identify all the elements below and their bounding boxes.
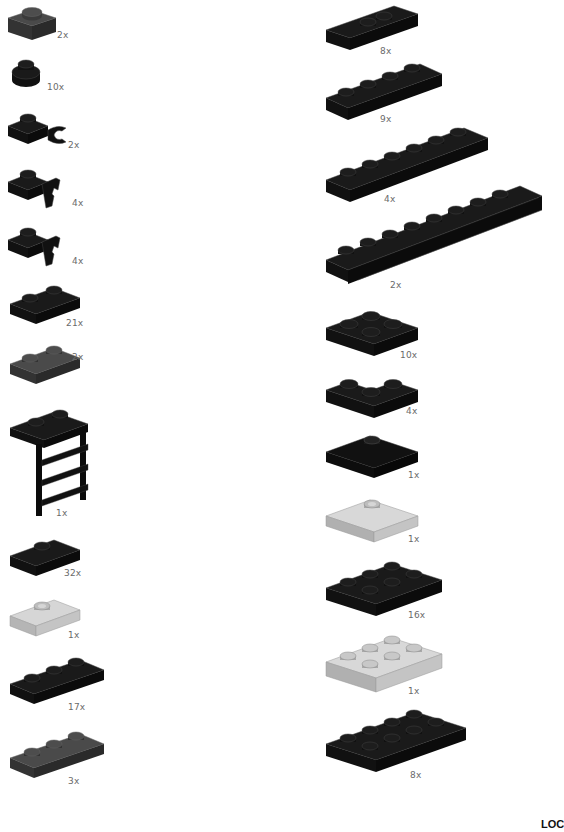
part-plate-2x3-black: 16x [324, 556, 454, 620]
part-plate-2x2-jumper-light-gray: 1x [324, 494, 434, 550]
footer-code: LOC [541, 818, 564, 830]
part-plate-2x3-light-gray: 1x [324, 630, 454, 700]
quantity-label: 4x [72, 256, 83, 266]
quantity-label: 1x [408, 470, 419, 480]
part-plate-ladder-black: 1x [8, 408, 98, 520]
plate-1x2-icon [8, 344, 88, 390]
quantity-label: 17x [68, 702, 85, 712]
part-plate-1x2-dark-gray: 2x [8, 344, 88, 390]
quantity-label: 10x [47, 82, 64, 92]
quantity-label: 32x [64, 568, 81, 578]
part-plate-2x4-black: 8x [324, 704, 474, 784]
part-plate-clip-vertical-black: 4x [6, 168, 86, 212]
part-plate-1x2-black: 8x [324, 4, 424, 56]
plate-2x3-icon [324, 630, 454, 700]
part-plate-2x2-corner-black: 4x [324, 372, 434, 426]
round-plate-icon [6, 58, 66, 98]
quantity-label: 2x [57, 30, 68, 40]
part-plate-1x4-black: 9x [324, 62, 454, 126]
part-plate-1x1-dark-gray: 2x [6, 4, 76, 44]
plate-2x2-icon [324, 306, 434, 366]
quantity-label: 1x [408, 686, 419, 696]
quantity-label: 21x [66, 318, 83, 328]
quantity-label: 8x [410, 770, 421, 780]
quantity-label: 1x [56, 508, 67, 518]
part-plate-1x8-door-rail-black: 2x [324, 184, 554, 294]
clip-plate-icon [6, 112, 76, 152]
part-plate-clip-horizontal-black: 2x [6, 112, 86, 152]
part-plate-2x2-jumper-black: 1x [324, 430, 434, 486]
plate-2x4-icon [324, 704, 474, 784]
quantity-label: 2x [72, 352, 83, 362]
part-plate-1x3-dark-gray: 3x [8, 730, 108, 784]
part-plate-clip-vertical-black: 4x [6, 226, 86, 270]
quantity-label: 9x [380, 114, 391, 124]
ladder-plate-icon [8, 408, 98, 520]
clip-plate-icon [6, 168, 76, 212]
plate-1x3-icon [8, 656, 108, 710]
door-rail-plate-icon [324, 184, 554, 294]
quantity-label: 16x [408, 610, 425, 620]
clip-plate-icon [6, 226, 76, 270]
part-plate-1x3-black: 17x [8, 656, 108, 710]
quantity-label: 1x [408, 534, 419, 544]
quantity-label: 4x [406, 406, 417, 416]
plate-2x3-icon [324, 556, 454, 620]
quantity-label: 2x [390, 280, 401, 290]
quantity-label: 1x [68, 630, 79, 640]
plate-1x3-icon [8, 730, 108, 784]
part-plate-jumper-1x2-black: 32x [8, 536, 88, 582]
part-plate-2x2-black: 10x [324, 306, 434, 366]
quantity-label: 10x [400, 350, 417, 360]
plate-1x2-icon [324, 4, 424, 56]
quantity-label: 8x [380, 46, 391, 56]
quantity-label: 4x [72, 198, 83, 208]
quantity-label: 3x [68, 776, 79, 786]
quantity-label: 2x [68, 140, 79, 150]
corner-plate-icon [324, 372, 434, 426]
part-plate-round-1x1-black: 10x [6, 58, 76, 98]
part-plate-jumper-1x2-light-gray: 1x [8, 596, 88, 642]
part-plate-1x2-black: 21x [8, 284, 88, 330]
